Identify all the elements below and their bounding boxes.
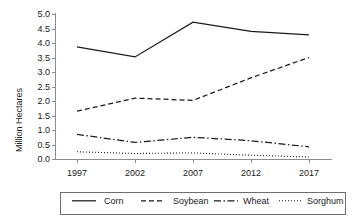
legend-label-corn: Corn xyxy=(104,196,124,206)
line-chart: Million Hectares 0.00.51.01.52.02.53.03.… xyxy=(0,0,360,224)
y-axis-ticks xyxy=(52,15,55,160)
y-tick-label: 2.0 xyxy=(37,96,50,106)
x-tick-label: 2007 xyxy=(183,168,203,178)
legend-label-wheat: Wheat xyxy=(243,196,270,206)
y-tick-label: 4.0 xyxy=(37,38,50,48)
x-axis-tick-labels: 19972002200720122017 xyxy=(67,168,319,178)
legend-label-soybean: Soybean xyxy=(173,196,209,206)
series-line-sorghum xyxy=(77,152,309,157)
y-tick-label: 1.5 xyxy=(37,111,50,121)
x-tick-label: 2012 xyxy=(241,168,261,178)
x-tick-label: 1997 xyxy=(67,168,87,178)
x-tick-label: 2002 xyxy=(125,168,145,178)
y-axis-title: Million Hectares xyxy=(14,87,24,152)
y-tick-label: 3.5 xyxy=(37,53,50,63)
y-axis-title-text: Million Hectares xyxy=(14,87,24,152)
y-tick-label: 4.5 xyxy=(37,24,50,34)
chart-canvas: Million Hectares 0.00.51.01.52.02.53.03.… xyxy=(0,0,360,224)
series-line-wheat xyxy=(77,134,309,146)
y-axis-tick-labels: 0.00.51.01.52.02.53.03.54.04.55.0 xyxy=(37,9,50,164)
y-tick-label: 3.0 xyxy=(37,67,50,77)
series-line-soybean xyxy=(77,58,309,112)
x-tick-label: 2017 xyxy=(299,168,319,178)
y-tick-label: 5.0 xyxy=(37,9,50,19)
series-line-corn xyxy=(77,22,309,57)
y-tick-label: 0.0 xyxy=(37,154,50,164)
y-tick-label: 1.0 xyxy=(37,125,50,135)
legend: CornSoybeanWheatSorghum xyxy=(72,196,344,206)
y-tick-label: 0.5 xyxy=(37,140,50,150)
y-tick-label: 2.5 xyxy=(37,82,50,92)
legend-label-sorghum: Sorghum xyxy=(307,196,344,206)
series-lines xyxy=(77,22,309,157)
